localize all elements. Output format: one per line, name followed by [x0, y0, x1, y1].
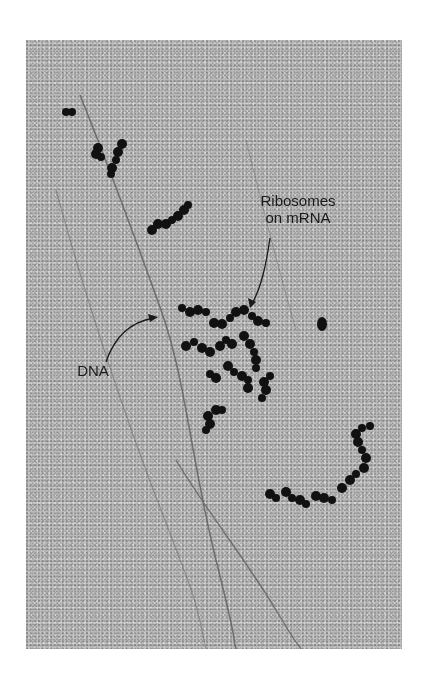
- dna-arrow-icon: [106, 318, 154, 362]
- dna-label: DNA: [68, 362, 118, 379]
- ribosomes-label-line2: on mRNA: [248, 209, 348, 226]
- electron-micrograph: Ribosomes on mRNA DNA: [26, 40, 402, 649]
- ribosome-clusters: [62, 108, 374, 508]
- ribosomes-arrow-icon: [252, 238, 270, 304]
- micrograph-content: [26, 40, 402, 649]
- ribosomes-label-line1: Ribosomes: [248, 192, 348, 209]
- ribosomes-label: Ribosomes on mRNA: [248, 192, 348, 226]
